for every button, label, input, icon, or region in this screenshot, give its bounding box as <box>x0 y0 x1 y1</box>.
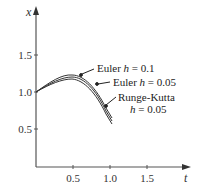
x-tick-1.0: 1.0 <box>103 172 117 184</box>
axes <box>36 12 184 167</box>
x-tick-1.5: 1.5 <box>140 172 154 184</box>
x-axis-arrow-icon <box>182 164 191 170</box>
x-tick-0.5: 0.5 <box>66 172 80 184</box>
y-tick-1.5: 1.5 <box>18 49 32 61</box>
x-axis-label: t <box>184 171 188 185</box>
label-runge-kutta: Runge-Kutta <box>118 91 175 103</box>
y-axis-arrow-icon <box>33 6 39 15</box>
label-runge-kutta-h: h = 0.05 <box>130 103 167 115</box>
euler-h01-curve <box>36 75 112 118</box>
y-tick-0.5: 0.5 <box>18 123 32 135</box>
curves <box>36 75 112 124</box>
label-euler-h005: Euler h = 0.05 <box>113 76 177 88</box>
chart: 0.5 1.0 1.5 0.5 1.0 1.5 x t Euler h = 0.… <box>0 0 210 194</box>
y-axis-label: x <box>25 5 32 19</box>
pointers <box>80 69 116 107</box>
y-tick-1.0: 1.0 <box>18 86 32 98</box>
label-euler-h01: Euler h = 0.1 <box>97 62 155 74</box>
